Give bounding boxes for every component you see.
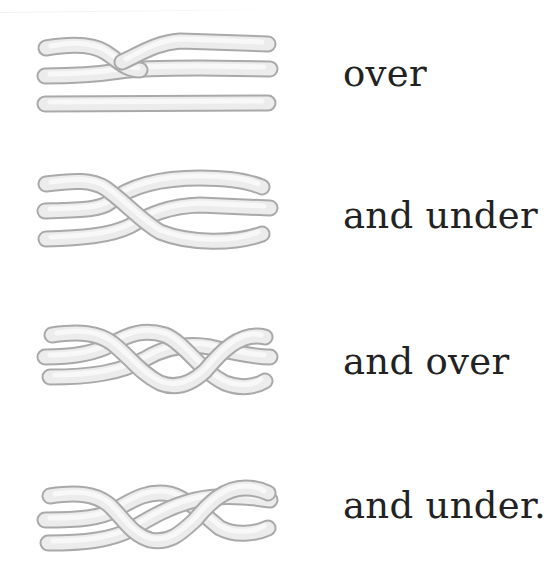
braid-step-2: and under — [0, 150, 553, 280]
braid-illustration-under-2 — [0, 440, 300, 581]
step-label: over — [343, 55, 427, 92]
strand-middle — [45, 66, 270, 76]
strand-bottom — [45, 101, 268, 104]
braid-illustration-under — [0, 150, 300, 280]
braid-step-1: over — [0, 0, 553, 140]
strand-top-right — [122, 39, 268, 62]
braid-step-4: and under. — [0, 440, 553, 581]
braid-step-3: and over — [0, 295, 553, 425]
step-label: and over — [343, 343, 510, 380]
braid-illustration-over — [0, 0, 300, 140]
step-label: and under — [343, 197, 538, 234]
step-label: and under. — [343, 487, 546, 524]
braid-illustration-over-2 — [0, 295, 300, 425]
